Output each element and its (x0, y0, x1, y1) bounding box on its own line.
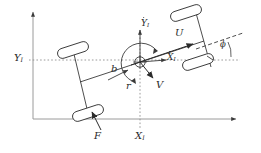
body-y-axis-label: YI (141, 19, 149, 29)
rear-right-wheel (71, 103, 105, 122)
rear-left-wheel (56, 40, 90, 59)
body-x-axis-label: XI (167, 53, 176, 63)
v-velocity-arrow (140, 62, 153, 78)
u-velocity-label: U (175, 28, 183, 38)
heading-angle-arc (228, 42, 231, 57)
yaw-rate-label: r (126, 81, 131, 91)
inertial-axes (33, 12, 236, 119)
diagram-svg (0, 0, 261, 153)
front-right-wheel (181, 52, 215, 71)
wheelbase-offset-label: b (111, 64, 117, 74)
heading-angle-label: ϕ (220, 40, 226, 49)
v-velocity-label: V (156, 80, 163, 90)
yaw-rate-arrowhead (131, 78, 136, 84)
inertial-x-axis-label: XI (135, 131, 145, 141)
figure-canvas: YI XI YI XI U V r b F ϕ (0, 0, 261, 153)
inertial-y-axis-label: YI (14, 53, 23, 63)
force-label: F (94, 131, 101, 141)
